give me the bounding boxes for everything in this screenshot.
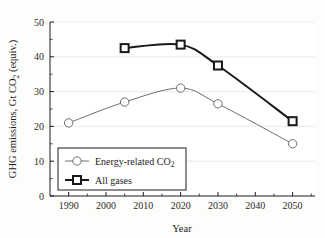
data-point-marker bbox=[121, 44, 129, 52]
x-axis-title: Year bbox=[172, 223, 192, 234]
y-tick-label-30: 30 bbox=[34, 86, 44, 97]
data-point-marker bbox=[176, 84, 184, 92]
chart-figure: 01020304050 1990200020102020203020402050… bbox=[0, 0, 325, 238]
data-point-marker bbox=[214, 62, 222, 70]
x-tick-label-2000: 2000 bbox=[96, 200, 116, 211]
x-tick-label-2020: 2020 bbox=[171, 200, 191, 211]
ghg-emissions-line-chart: 01020304050 1990200020102020203020402050… bbox=[0, 0, 325, 238]
legend-label-2: All gases bbox=[95, 175, 132, 186]
data-point-marker bbox=[177, 41, 185, 49]
legend-marker-square bbox=[73, 176, 81, 184]
y-tick-label-0: 0 bbox=[39, 191, 44, 202]
x-tick-label-2010: 2010 bbox=[133, 200, 153, 211]
x-tick-label-2030: 2030 bbox=[208, 200, 228, 211]
y-tick-label-40: 40 bbox=[34, 51, 44, 62]
x-tick-label-2040: 2040 bbox=[245, 200, 265, 211]
data-point-marker bbox=[288, 140, 296, 148]
data-point-marker bbox=[64, 119, 72, 127]
data-point-marker bbox=[214, 100, 222, 108]
legend-marker-circle bbox=[73, 157, 81, 165]
data-point-marker bbox=[120, 98, 128, 106]
y-tick-label-20: 20 bbox=[34, 121, 44, 132]
y-tick-label-10: 10 bbox=[34, 156, 44, 167]
y-tick-label-50: 50 bbox=[34, 17, 44, 28]
x-tick-label-1990: 1990 bbox=[59, 200, 79, 211]
x-tick-label-2050: 2050 bbox=[283, 200, 303, 211]
chart-legend: Energy-related CO2All gases bbox=[58, 148, 186, 190]
data-point-marker bbox=[289, 117, 297, 125]
